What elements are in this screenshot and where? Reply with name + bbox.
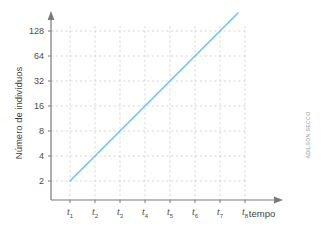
x-tick-subscript-t6: 6 xyxy=(195,213,199,219)
y-tick-label-16: 16 xyxy=(34,101,44,111)
x-tick-label-t7: t7 xyxy=(217,206,224,219)
x-tick-labels: t1 t2 t3 t4 t5 t6 t7 t8 xyxy=(67,206,249,219)
x-tick-subscript-t4: 4 xyxy=(145,213,149,219)
y-tick-label-32: 32 xyxy=(34,76,44,86)
x-tick-subscript-t2: 2 xyxy=(95,213,99,219)
x-tick-label-t1: t1 xyxy=(67,206,74,219)
y-axis-title: Número de indivíduos xyxy=(13,67,24,160)
x-tick-subscript-t1: 1 xyxy=(70,213,74,219)
axis-lines xyxy=(48,11,283,203)
arrow-right-icon xyxy=(274,197,283,204)
chart-figure: 2 4 8 16 32 64 128 t1 t2 t3 t4 t5 xyxy=(0,0,323,230)
x-tick-label-t8: t8 xyxy=(242,206,249,219)
gridlines xyxy=(51,26,246,200)
x-tick-label-t4: t4 xyxy=(142,206,149,219)
arrow-up-icon xyxy=(48,11,55,20)
x-tick-label-t6: t6 xyxy=(192,206,199,219)
y-tick-label-8: 8 xyxy=(39,126,44,136)
x-tick-subscript-t3: 3 xyxy=(120,213,124,219)
x-tick-subscript-t5: 5 xyxy=(170,213,174,219)
y-tick-label-64: 64 xyxy=(34,51,44,61)
y-tick-label-2: 2 xyxy=(39,176,44,186)
x-tick-label-t2: t2 xyxy=(92,206,99,219)
horizontal-gridlines xyxy=(51,31,246,181)
chart-canvas: 2 4 8 16 32 64 128 t1 t2 t3 t4 t5 xyxy=(0,0,323,230)
credit-watermark: ADILSON SECCO xyxy=(305,111,311,158)
x-tick-label-t3: t3 xyxy=(117,206,124,219)
y-tick-labels: 2 4 8 16 32 64 128 xyxy=(29,26,44,186)
vertical-gridlines xyxy=(70,26,245,200)
y-tick-label-4: 4 xyxy=(39,151,44,161)
y-tick-label-128: 128 xyxy=(29,26,44,36)
x-tick-label-t5: t5 xyxy=(167,206,174,219)
x-tick-subscript-t7: 7 xyxy=(220,213,224,219)
x-axis-title: tempo xyxy=(249,208,275,219)
